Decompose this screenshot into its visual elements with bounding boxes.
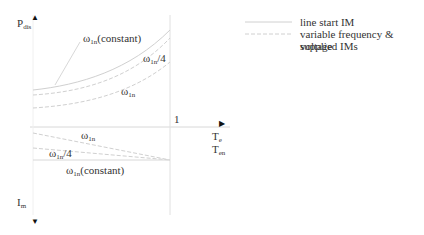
arrow-up-icon: ▲ xyxy=(31,14,39,22)
legend-item-supplied: supplied IMs xyxy=(300,40,358,52)
legend-item-line-start: line start IM xyxy=(300,16,354,28)
arrow-down-icon: ▼ xyxy=(31,218,39,226)
ylabel-pdis: Pdis xyxy=(17,18,31,31)
curve-upper-nominal xyxy=(33,62,170,108)
x-tick-1: 1 xyxy=(174,114,180,125)
label-upper-constant: ω1n(constant) xyxy=(83,33,141,46)
leader-line xyxy=(55,42,80,85)
arrow-right-icon: ▶ xyxy=(219,120,225,128)
label-lower-nominal: ω1n xyxy=(81,130,95,143)
curve-upper-quarter xyxy=(33,38,170,95)
label-lower-constant: ω1n(constant) xyxy=(66,165,124,178)
ylabel-im: Im xyxy=(17,197,26,210)
label-upper-quarter: ω1n/4 xyxy=(143,53,166,66)
label-upper-nominal: ω1n xyxy=(121,86,135,99)
label-lower-quarter: ω1n/4 xyxy=(49,148,72,161)
xlabel-ten: Ten xyxy=(212,144,225,157)
